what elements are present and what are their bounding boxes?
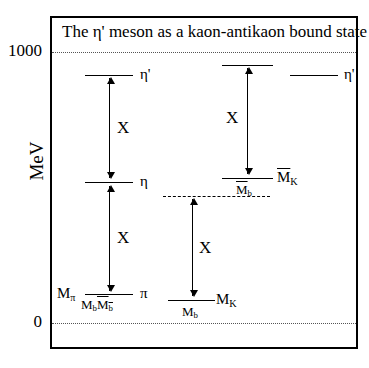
level-far-right-eta-prime — [290, 75, 338, 76]
level-label-left-pi: π — [140, 286, 148, 301]
level-label-left-eta-prime: η' — [140, 67, 151, 82]
level-label-mid-m-k: MK — [216, 292, 237, 309]
level-right-m-k-bar — [222, 178, 273, 179]
arrow-label-right: X — [226, 108, 238, 128]
level-label-left-mb-mbbar: MbMb — [81, 298, 113, 313]
level-left-eta — [85, 182, 133, 183]
level-label-left-eta: η — [140, 174, 148, 189]
level-label-mid-m-b: Mb — [182, 305, 198, 320]
arrow-left-lower — [109, 186, 110, 291]
level-left-eta-prime — [85, 75, 133, 76]
arrow-label-left-upper: X — [117, 118, 129, 138]
y-tick-label-0: 0 — [0, 312, 42, 332]
gridline-1000 — [52, 52, 356, 53]
level-right-top — [222, 65, 273, 66]
arrow-mid — [192, 199, 193, 296]
chart-title: The η' meson as a kaon-antikaon bound st… — [62, 22, 367, 42]
level-label-right-m-k-bar: MK — [277, 170, 298, 187]
level-mid-m-k — [168, 300, 215, 301]
level-left-pi — [85, 294, 133, 295]
level-label-left-m-pi: Mπ — [57, 286, 76, 303]
arrow-left-upper — [109, 78, 110, 178]
arrow-label-mid: X — [199, 238, 211, 258]
gridline-0 — [52, 323, 356, 324]
y-axis-title: MeV — [26, 116, 48, 206]
level-label-right-m-b-bar: Mb — [236, 183, 252, 198]
arrow-right — [247, 68, 248, 174]
arrow-label-left-lower: X — [117, 228, 129, 248]
y-tick-label-1000: 1000 — [0, 41, 42, 61]
figure-root: MeV 1000 0 The η' meson as a kaon-antika… — [0, 0, 369, 368]
level-mid-dashed-threshold — [163, 196, 270, 197]
level-label-far-right-eta-prime: η' — [344, 67, 355, 82]
